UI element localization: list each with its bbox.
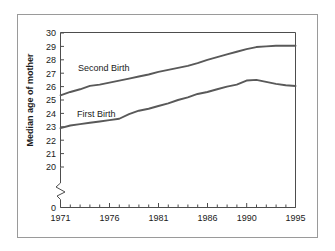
series-line-first-birth	[61, 80, 296, 128]
y-tick-labels: 30 29 28 27 26 25 24 23 22 21 20 0	[46, 28, 56, 212]
y-tick-label: 27	[46, 69, 56, 79]
y-tick-label: 22	[46, 136, 56, 146]
series-label-first-birth: First Birth	[77, 109, 116, 119]
y-tick-label: 20	[46, 162, 56, 172]
x-tick-label: 1981	[148, 213, 168, 223]
y-tick-label: 21	[46, 149, 56, 159]
x-tick-marks	[61, 203, 296, 208]
chart-figure: 30 29 28 27 26 25 24 23 22 21 20 0	[0, 0, 335, 251]
axis-frame	[56, 33, 296, 208]
y-axis-title: Median age of mother	[25, 53, 35, 147]
line-chart-plot: 30 29 28 27 26 25 24 23 22 21 20 0	[0, 0, 335, 251]
x-tick-label: 1976	[99, 213, 119, 223]
y-tick-label: 30	[46, 28, 56, 38]
x-tick-label: 1995	[285, 213, 305, 223]
x-tick-label: 1990	[237, 213, 257, 223]
x-tick-labels: 1971 1976 1981 1986 1990 1995	[50, 213, 305, 223]
x-tick-label: 1971	[50, 213, 70, 223]
y-tick-label: 25	[46, 95, 56, 105]
y-tick-label: 23	[46, 122, 56, 132]
y-tick-marks	[61, 33, 65, 167]
y-tick-label: 29	[46, 42, 56, 52]
series-label-second-birth: Second Birth	[78, 63, 130, 73]
y-tick-label: 26	[46, 82, 56, 92]
y-tick-label: 24	[46, 109, 56, 119]
y-tick-label-zero: 0	[51, 203, 56, 213]
y-tick-label: 28	[46, 55, 56, 65]
y-axis-break-symbol	[56, 168, 65, 200]
x-tick-label: 1986	[197, 213, 217, 223]
